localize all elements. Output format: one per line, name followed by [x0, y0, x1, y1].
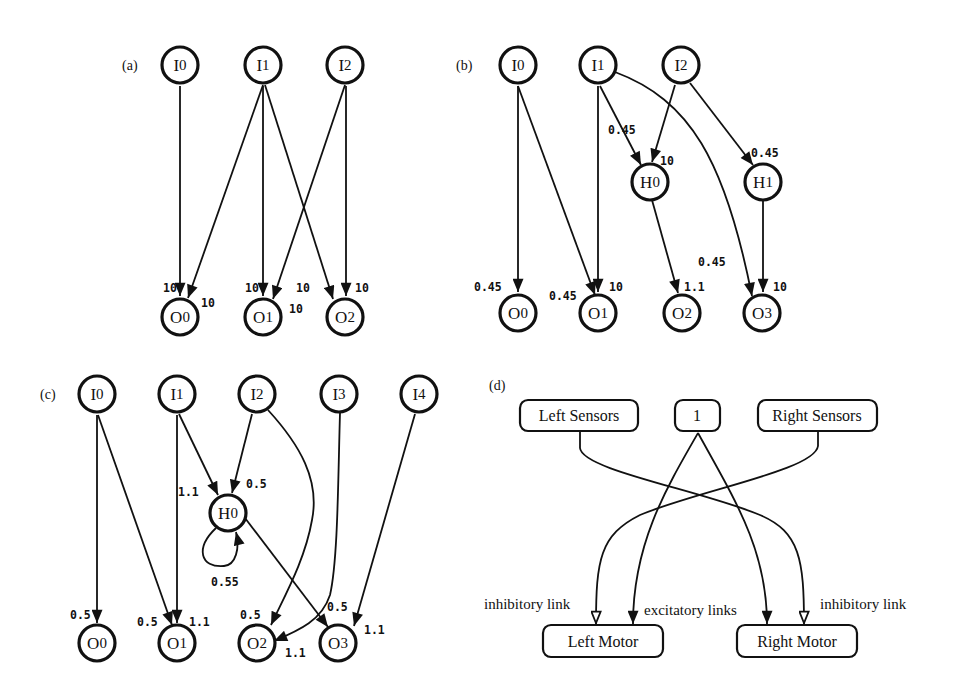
svg-text:I2: I2 [674, 56, 687, 75]
svg-text:I0: I0 [90, 385, 103, 404]
edge-b-I2-H1 [690, 83, 753, 165]
weight-label: 0.5 [246, 477, 267, 491]
weight-label: 0.45 [608, 123, 636, 137]
edge-b-H0-O2 [652, 200, 678, 293]
svg-text:Left Motor: Left Motor [568, 633, 639, 650]
svg-text:Left Sensors: Left Sensors [539, 407, 619, 424]
box-left-motor: Left Motor [543, 625, 663, 657]
node-b-I1: I1 [580, 47, 616, 83]
panel-d: (d) Left Sensors 1 Right Sensors Left Mo… [484, 378, 907, 657]
box-right-motor: Right Motor [737, 625, 857, 657]
svg-text:H0: H0 [640, 173, 660, 192]
edge-b-I0-O1 [518, 86, 595, 295]
weight-label: 10 [609, 280, 623, 294]
edge-c-I2-O2 [268, 410, 314, 625]
weight-label: 10 [773, 280, 787, 294]
weight-label: 10 [660, 154, 674, 168]
legend-inhibitory-left: inhibitory link [484, 596, 571, 612]
weight-label: 0.45 [549, 289, 577, 303]
svg-text:I2: I2 [250, 385, 263, 404]
weight-label: 1.1 [285, 646, 306, 660]
edge-c-I1-H0 [179, 414, 218, 495]
weight-label: 0.5 [137, 615, 158, 629]
node-a-I2: I2 [327, 47, 363, 83]
edge-a-I1-O2 [265, 85, 333, 299]
node-c-O3: O3 [320, 625, 356, 661]
svg-text:Right Sensors: Right Sensors [772, 407, 861, 425]
svg-text:O0: O0 [508, 304, 528, 323]
node-a-O0: O0 [162, 299, 198, 335]
node-b-O0: O0 [500, 295, 536, 331]
legend-excitatory: excitatory links [644, 602, 737, 618]
node-a-O1: O1 [245, 299, 281, 335]
node-c-O2: O2 [239, 625, 275, 661]
weight-label: 10 [201, 296, 215, 310]
weight-label: 10 [296, 281, 310, 295]
weight-label: 10 [245, 281, 259, 295]
panel-a-label: (a) [122, 58, 138, 74]
link-right-sensors-to-left-motor [596, 431, 818, 624]
node-c-I2: I2 [239, 376, 275, 412]
node-c-H0: H0 [210, 495, 246, 531]
weight-label: 10 [355, 281, 369, 295]
weight-label: 0.55 [211, 575, 239, 589]
svg-text:1: 1 [693, 407, 701, 424]
node-a-O2: O2 [327, 299, 363, 335]
node-a-I0: I0 [162, 47, 198, 83]
edge-b-I2-H0 [652, 85, 675, 162]
edge-c-I0-O1 [98, 415, 172, 625]
svg-text:I0: I0 [511, 56, 524, 75]
svg-text:O0: O0 [87, 634, 107, 653]
svg-text:I4: I4 [412, 385, 426, 404]
edge-c-H0-H0-loop [203, 528, 238, 566]
panel-b-label: (b) [456, 58, 473, 74]
weight-label: 0.45 [698, 255, 726, 269]
weight-label: 1.1 [178, 485, 199, 499]
weight-label: 10 [163, 281, 177, 295]
box-left-sensors: Left Sensors [520, 400, 638, 431]
svg-text:H1: H1 [753, 173, 773, 192]
node-b-O1: O1 [580, 295, 616, 331]
node-b-O3: O3 [744, 295, 780, 331]
weight-label: 0.5 [327, 600, 348, 614]
weight-label: 1.1 [189, 615, 210, 629]
edge-a-I1-O0 [188, 85, 263, 298]
weight-label: 1.1 [684, 280, 705, 294]
svg-text:I3: I3 [332, 385, 345, 404]
svg-text:O3: O3 [752, 304, 772, 323]
node-b-H0: H0 [632, 164, 668, 200]
panel-c-label: (c) [40, 387, 56, 403]
node-c-I0: I0 [79, 376, 115, 412]
svg-text:I2: I2 [338, 56, 351, 75]
box-bias: 1 [675, 400, 720, 431]
node-b-O2: O2 [664, 295, 700, 331]
node-b-I0: I0 [500, 47, 536, 83]
node-b-I2: I2 [663, 47, 699, 83]
edge-c-I4-O3 [354, 414, 415, 626]
svg-text:O1: O1 [167, 634, 187, 653]
edge-a-I2-O1 [273, 85, 345, 299]
panel-b: (b) 0.45 0.45 10 0.45 0.45 10 0.45 1.1 1… [456, 47, 787, 331]
svg-text:Right Motor: Right Motor [757, 633, 837, 651]
svg-text:I1: I1 [170, 385, 183, 404]
panel-a: (a) 10 10 10 10 10 10 I0 I1 I2 O0 O1 O2 [122, 47, 369, 335]
svg-text:I1: I1 [256, 56, 269, 75]
svg-text:O1: O1 [588, 304, 608, 323]
link-bias-to-right-motor [698, 433, 767, 624]
weight-label: 10 [289, 302, 303, 316]
svg-text:O0: O0 [170, 308, 190, 327]
panel-d-label: (d) [489, 378, 506, 394]
link-bias-to-left-motor [633, 433, 698, 624]
weight-label: 0.5 [70, 608, 91, 622]
weight-label: 0.45 [474, 280, 502, 294]
legend-inhibitory-right: inhibitory link [820, 596, 907, 612]
link-left-sensors-to-right-motor [580, 431, 804, 624]
node-c-O0: O0 [79, 625, 115, 661]
node-a-I1: I1 [245, 47, 281, 83]
svg-text:O3: O3 [328, 634, 348, 653]
node-c-O1: O1 [159, 625, 195, 661]
node-b-H1: H1 [745, 164, 781, 200]
svg-text:O2: O2 [247, 634, 267, 653]
svg-text:O2: O2 [672, 304, 692, 323]
panel-c: (c) 0.5 0.5 1.1 1.1 0.5 0.55 0.5 0.5 1.1… [40, 376, 437, 661]
